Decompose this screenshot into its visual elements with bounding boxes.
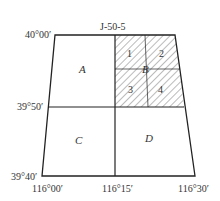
quadrant-c-label: C: [75, 134, 83, 146]
b-sub-4-label: 4: [158, 84, 163, 95]
quadrant-b-hatch: [115, 35, 184, 107]
lat-label-bottom: 39°40′: [11, 171, 37, 182]
b-sub-2-label: 2: [159, 48, 164, 59]
b-sub-3-label: 3: [128, 84, 133, 95]
lat-label-middle: 39°50′: [17, 101, 43, 112]
lon-label-right: 116°30′: [178, 183, 209, 194]
sheet-title: J-50-5: [100, 21, 126, 32]
lon-label-left: 116°00′: [32, 183, 63, 194]
b-sub-1-label: 1: [127, 48, 132, 59]
quadrant-a-label: A: [78, 63, 86, 75]
quadrant-d-label: D: [144, 132, 153, 144]
lat-label-top: 40°00′: [25, 29, 51, 40]
map-sheet-diagram: J-50-5 40°00′ 39°50′ 39°40′ 116°00′ 116°…: [0, 0, 220, 201]
lon-label-middle: 116°15′: [102, 183, 133, 194]
quadrant-b-label: B: [142, 63, 149, 75]
